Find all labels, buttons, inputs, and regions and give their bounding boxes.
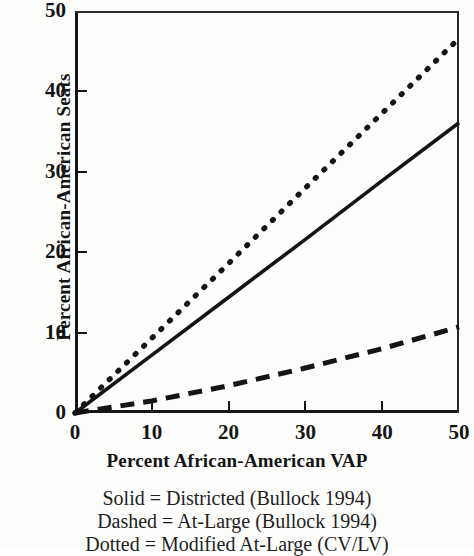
x-tick-label: 40 [372, 422, 393, 443]
x-tick-label: 30 [295, 422, 316, 443]
y-tick-label: 0 [56, 402, 67, 423]
caption-line-solid: Solid = Districted (Bullock 1994) [0, 487, 474, 510]
caption-line-dashed: Dashed = At-Large (Bullock 1994) [0, 510, 474, 533]
series-line-solid [75, 123, 459, 413]
plot-area: 01020304050 01020304050 [75, 11, 459, 413]
y-tick-label: 40 [45, 80, 66, 101]
y-tick-label: 50 [45, 0, 66, 21]
x-tick-label: 50 [449, 422, 470, 443]
x-tick-label: 0 [70, 422, 81, 443]
series-lines [75, 11, 459, 413]
x-tick-label: 10 [141, 422, 162, 443]
x-tick-label: 20 [218, 422, 239, 443]
x-axis-title: Percent African-American VAP [0, 450, 474, 472]
caption-line-dotted: Dotted = Modified At-Large (CV/LV) [0, 533, 474, 556]
y-tick-label: 10 [45, 322, 66, 343]
chart-caption: Solid = Districted (Bullock 1994) Dashed… [0, 487, 474, 556]
series-line-dotted [75, 38, 459, 413]
y-tick-label: 20 [45, 241, 66, 262]
y-tick-label: 30 [45, 161, 66, 182]
